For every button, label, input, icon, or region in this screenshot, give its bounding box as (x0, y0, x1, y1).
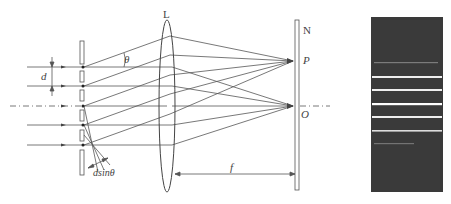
focal-length-dimension (175, 172, 295, 176)
diffraction-pattern-photo (371, 17, 443, 192)
screen-label: N (303, 25, 311, 36)
diffracted-rays (84, 36, 293, 145)
screen (295, 20, 299, 190)
slit-spacing-label: d (41, 71, 47, 82)
point-p-label: P (303, 55, 310, 66)
path-difference-construction (84, 106, 110, 172)
d-dimension (50, 57, 54, 96)
incident-rays (27, 67, 167, 145)
angle-label: θ (124, 54, 129, 65)
path-difference-label: dsinθ (93, 168, 115, 178)
grating-diffraction-diagram (0, 0, 451, 204)
lens-label: L (163, 9, 170, 20)
grating (80, 41, 84, 175)
ray-arrowheads (61, 58, 294, 147)
point-o-label: O (301, 109, 309, 120)
focal-length-label: f (230, 162, 233, 173)
